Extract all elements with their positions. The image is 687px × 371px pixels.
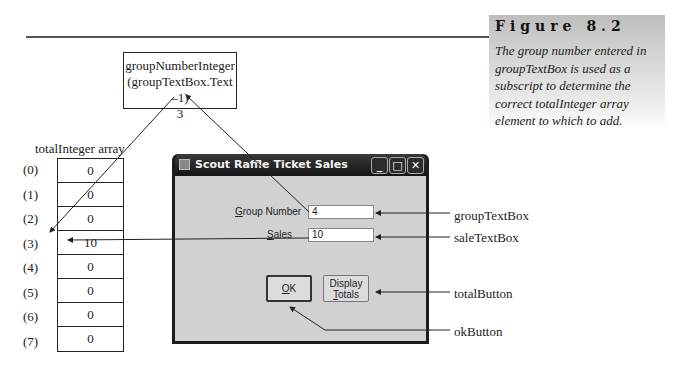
scout-raffle-window: Scout Raffle Ticket Sales _ □ ✕ Group Nu… bbox=[172, 154, 429, 344]
figure-caption-box: Figure 8.2 The group number entered in g… bbox=[489, 15, 665, 130]
array-cell: 10 bbox=[58, 231, 123, 255]
group-textbox[interactable]: 4 bbox=[308, 205, 374, 219]
minimize-button[interactable]: _ bbox=[371, 157, 388, 174]
total-integer-array: 0 0 0 10 0 0 0 0 bbox=[57, 158, 124, 352]
figure-caption: The group number entered in groupTextBox… bbox=[495, 42, 663, 130]
array-cell: 0 bbox=[58, 279, 123, 303]
accel-key: G bbox=[235, 206, 243, 217]
close-button[interactable]: ✕ bbox=[407, 157, 424, 174]
callout-ok-button: okButton bbox=[454, 324, 502, 340]
button-text: otals bbox=[338, 289, 359, 300]
accel-key: O bbox=[282, 283, 290, 294]
gni-line2: (groupTextBox.Text –1) bbox=[124, 74, 236, 106]
array-index: (2) bbox=[23, 207, 38, 231]
array-cell: 0 bbox=[58, 327, 123, 351]
array-cell: 0 bbox=[58, 207, 123, 231]
group-number-integer-box: groupNumberInteger (groupTextBox.Text –1… bbox=[123, 52, 237, 109]
gni-value: 3 bbox=[124, 106, 236, 122]
button-text: Display bbox=[324, 278, 368, 289]
ok-button[interactable]: OK bbox=[266, 275, 312, 302]
display-totals-button[interactable]: DisplayTotals bbox=[323, 275, 369, 302]
window-client-area: Group Number 4 Sales 10 OK DisplayTotals bbox=[175, 176, 426, 341]
array-index: (7) bbox=[23, 330, 38, 354]
button-text: Totals bbox=[324, 289, 368, 300]
app-icon bbox=[179, 159, 190, 170]
array-cell: 0 bbox=[58, 303, 123, 327]
window-title: Scout Raffle Ticket Sales bbox=[195, 158, 348, 171]
array-cell: 0 bbox=[58, 159, 123, 183]
array-index: (3) bbox=[23, 232, 38, 256]
array-title: totalInteger array bbox=[35, 141, 125, 157]
accel-key: S bbox=[267, 229, 274, 240]
array-index: (4) bbox=[23, 256, 38, 280]
label-text: ales bbox=[274, 229, 292, 240]
gni-line1: groupNumberInteger bbox=[124, 58, 236, 74]
array-cell: 0 bbox=[58, 255, 123, 279]
figure-title: Figure 8.2 bbox=[495, 18, 626, 34]
maximize-button[interactable]: □ bbox=[389, 157, 406, 174]
callout-total-button: totalButton bbox=[454, 286, 513, 302]
callout-sale-textbox: saleTextBox bbox=[454, 230, 519, 246]
button-text: K bbox=[290, 283, 297, 294]
sale-textbox[interactable]: 10 bbox=[308, 228, 374, 242]
array-index: (1) bbox=[23, 183, 38, 207]
sales-label: Sales bbox=[267, 229, 292, 240]
label-text: roup Number bbox=[243, 206, 301, 217]
callout-group-textbox: groupTextBox bbox=[454, 208, 529, 224]
group-number-label: Group Number bbox=[235, 206, 301, 217]
array-index: (6) bbox=[23, 305, 38, 329]
array-cell: 0 bbox=[58, 183, 123, 207]
array-index: (5) bbox=[23, 281, 38, 305]
window-titlebar[interactable]: Scout Raffle Ticket Sales _ □ ✕ bbox=[175, 154, 426, 176]
array-index: (0) bbox=[23, 158, 38, 182]
